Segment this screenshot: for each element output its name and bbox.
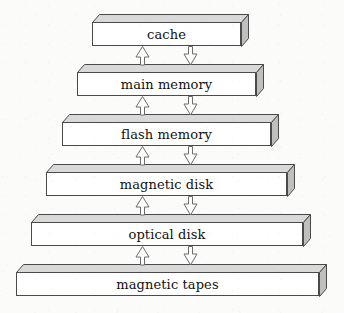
arrow-cache-down	[183, 46, 198, 66]
level-front-face-magnetic-tapes: magnetic tapes	[16, 272, 319, 296]
arrow-glyph-down	[184, 97, 197, 116]
arrow-cache-up	[135, 46, 150, 66]
level-front-face-magnetic-disk: magnetic disk	[46, 172, 287, 196]
arrow-svg-cache-down	[183, 46, 198, 66]
hierarchy-level-flash-memory: flash memory	[62, 114, 278, 146]
level-front-face-flash-memory: flash memory	[62, 122, 271, 146]
level-front-face-cache: cache	[92, 22, 241, 46]
arrow-svg-magnetic-disk-down	[183, 196, 198, 216]
level-label-main-memory: main memory	[121, 77, 213, 90]
arrow-optical-disk-down	[183, 246, 198, 266]
arrow-magnetic-disk-up	[135, 196, 150, 216]
arrow-svg-optical-disk-up	[135, 246, 150, 266]
arrow-main-memory-up	[135, 96, 150, 116]
hierarchy-level-cache: cache	[92, 14, 248, 46]
level-label-magnetic-tapes: magnetic tapes	[116, 277, 218, 290]
arrow-magnetic-disk-down	[183, 196, 198, 216]
arrow-glyph-up	[136, 47, 149, 66]
level-label-flash-memory: flash memory	[121, 127, 212, 140]
arrow-svg-main-memory-down	[183, 96, 198, 116]
hierarchy-level-magnetic-disk: magnetic disk	[46, 164, 294, 196]
arrow-optical-disk-up	[135, 246, 150, 266]
arrow-svg-flash-memory-up	[135, 146, 150, 166]
arrow-glyph-up	[136, 97, 149, 116]
level-label-magnetic-disk: magnetic disk	[120, 177, 214, 190]
arrow-glyph-up	[136, 197, 149, 216]
level-label-cache: cache	[147, 27, 186, 40]
memory-hierarchy-diagram: cachemain memoryflash memorymagnetic dis…	[0, 0, 344, 313]
hierarchy-level-magnetic-tapes: magnetic tapes	[16, 264, 326, 296]
hierarchy-level-optical-disk: optical disk	[31, 214, 310, 246]
arrow-glyph-down	[184, 247, 197, 266]
level-front-face-optical-disk: optical disk	[31, 222, 303, 246]
arrow-glyph-down	[184, 147, 197, 166]
arrow-flash-memory-down	[183, 146, 198, 166]
arrow-svg-optical-disk-down	[183, 246, 198, 266]
hierarchy-level-main-memory: main memory	[77, 64, 263, 96]
level-front-face-main-memory: main memory	[77, 72, 256, 96]
arrow-svg-main-memory-up	[135, 96, 150, 116]
arrow-flash-memory-up	[135, 146, 150, 166]
arrow-glyph-up	[136, 147, 149, 166]
arrow-glyph-down	[184, 197, 197, 216]
arrow-svg-flash-memory-down	[183, 146, 198, 166]
arrow-main-memory-down	[183, 96, 198, 116]
arrow-glyph-down	[184, 47, 197, 66]
arrow-svg-cache-up	[135, 46, 150, 66]
level-label-optical-disk: optical disk	[128, 227, 205, 240]
arrow-svg-magnetic-disk-up	[135, 196, 150, 216]
arrow-glyph-up	[136, 247, 149, 266]
